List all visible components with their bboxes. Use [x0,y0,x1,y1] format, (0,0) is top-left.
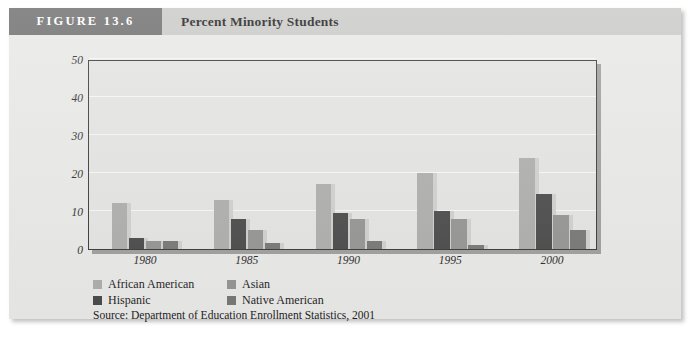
bar-asian-1995 [451,219,467,249]
bar-front-face [265,243,281,249]
y-tick-label: 0 [53,244,83,256]
x-tick-label: 1990 [337,254,360,266]
bar-group [316,61,384,249]
bar-asian-1990 [350,219,366,249]
bar-side-face [382,241,386,249]
bar-african-american-2000 [519,158,535,249]
bar-side-face [178,241,182,249]
bar-front-face [333,213,349,249]
gridline [89,58,596,59]
bar-front-face [316,184,332,249]
bar-group [112,61,180,249]
bar-front-face [214,200,230,249]
bar-asian-1980 [146,241,162,249]
bar-front-face [434,211,450,249]
chart-plot-area [89,61,596,249]
legend-label: African American [108,277,194,292]
legend-label: Native American [242,293,324,308]
x-axis-tick-labels: 19801985199019952000 [88,254,597,272]
figure-header: FIGURE 13.6 Percent Minority Students [9,8,681,35]
legend-item-asian[interactable]: Asian [227,277,361,292]
bar-front-face [417,173,433,249]
bar-hispanic-1995 [434,211,450,249]
bar-front-face [112,203,128,249]
x-tick-label: 1995 [439,254,462,266]
y-tick-label: 10 [53,206,83,218]
bar-hispanic-1985 [231,219,247,249]
figure-number-label: FIGURE 13.6 [9,8,162,35]
bar-front-face [231,219,247,249]
x-tick-label: 1980 [133,254,156,266]
y-tick-label: 30 [53,130,83,142]
bar-side-face [484,245,488,249]
bar-front-face [248,230,264,249]
bar-front-face [536,194,552,249]
bar-group [519,61,587,249]
legend-swatch-icon [227,296,236,305]
bar-front-face [451,219,467,249]
bar-front-face [519,158,535,249]
bar-african-american-1995 [417,173,433,249]
legend-item-native-american[interactable]: Native American [227,293,361,308]
bar-front-face [468,245,484,249]
bar-native-american-1995 [468,245,484,249]
source-note: Source: Department of Education Enrollme… [93,309,375,321]
legend-swatch-icon [93,296,102,305]
legend-item-hispanic[interactable]: Hispanic [93,293,227,308]
bar-native-american-2000 [570,230,586,249]
legend-label: Asian [242,277,270,292]
bar-group [417,61,485,249]
bar-native-american-1990 [367,241,383,249]
x-tick-label: 1985 [235,254,258,266]
bar-side-face [280,243,284,249]
bar-side-face [586,230,590,249]
bar-native-american-1980 [163,241,179,249]
y-tick-label: 20 [53,168,83,180]
bar-hispanic-1980 [129,238,145,249]
bar-african-american-1990 [316,184,332,249]
bar-african-american-1980 [112,203,128,249]
bar-hispanic-1990 [333,213,349,249]
chart-legend: African AmericanAsianHispanicNative Amer… [93,276,423,308]
bar-hispanic-2000 [536,194,552,249]
bar-front-face [129,238,145,249]
bar-front-face [350,219,366,249]
bar-asian-2000 [553,215,569,249]
y-axis-tick-labels: 01020304050 [49,60,83,250]
bar-front-face [146,241,162,249]
figure-card: FIGURE 13.6 Percent Minority Students 01… [9,8,681,319]
legend-label: Hispanic [108,293,151,308]
legend-swatch-icon [227,280,236,289]
bar-group [214,61,282,249]
bar-front-face [367,241,383,249]
bar-native-american-1985 [265,243,281,249]
chart-plot-frame [88,60,597,250]
y-tick-label: 40 [53,92,83,104]
x-tick-label: 2000 [541,254,564,266]
bar-front-face [553,215,569,249]
bar-asian-1985 [248,230,264,249]
figure-title: Percent Minority Students [181,14,339,30]
y-tick-label: 50 [53,54,83,66]
bar-african-american-1985 [214,200,230,249]
bar-front-face [570,230,586,249]
legend-item-african-american[interactable]: African American [93,277,227,292]
bar-front-face [163,241,179,249]
legend-swatch-icon [93,280,102,289]
